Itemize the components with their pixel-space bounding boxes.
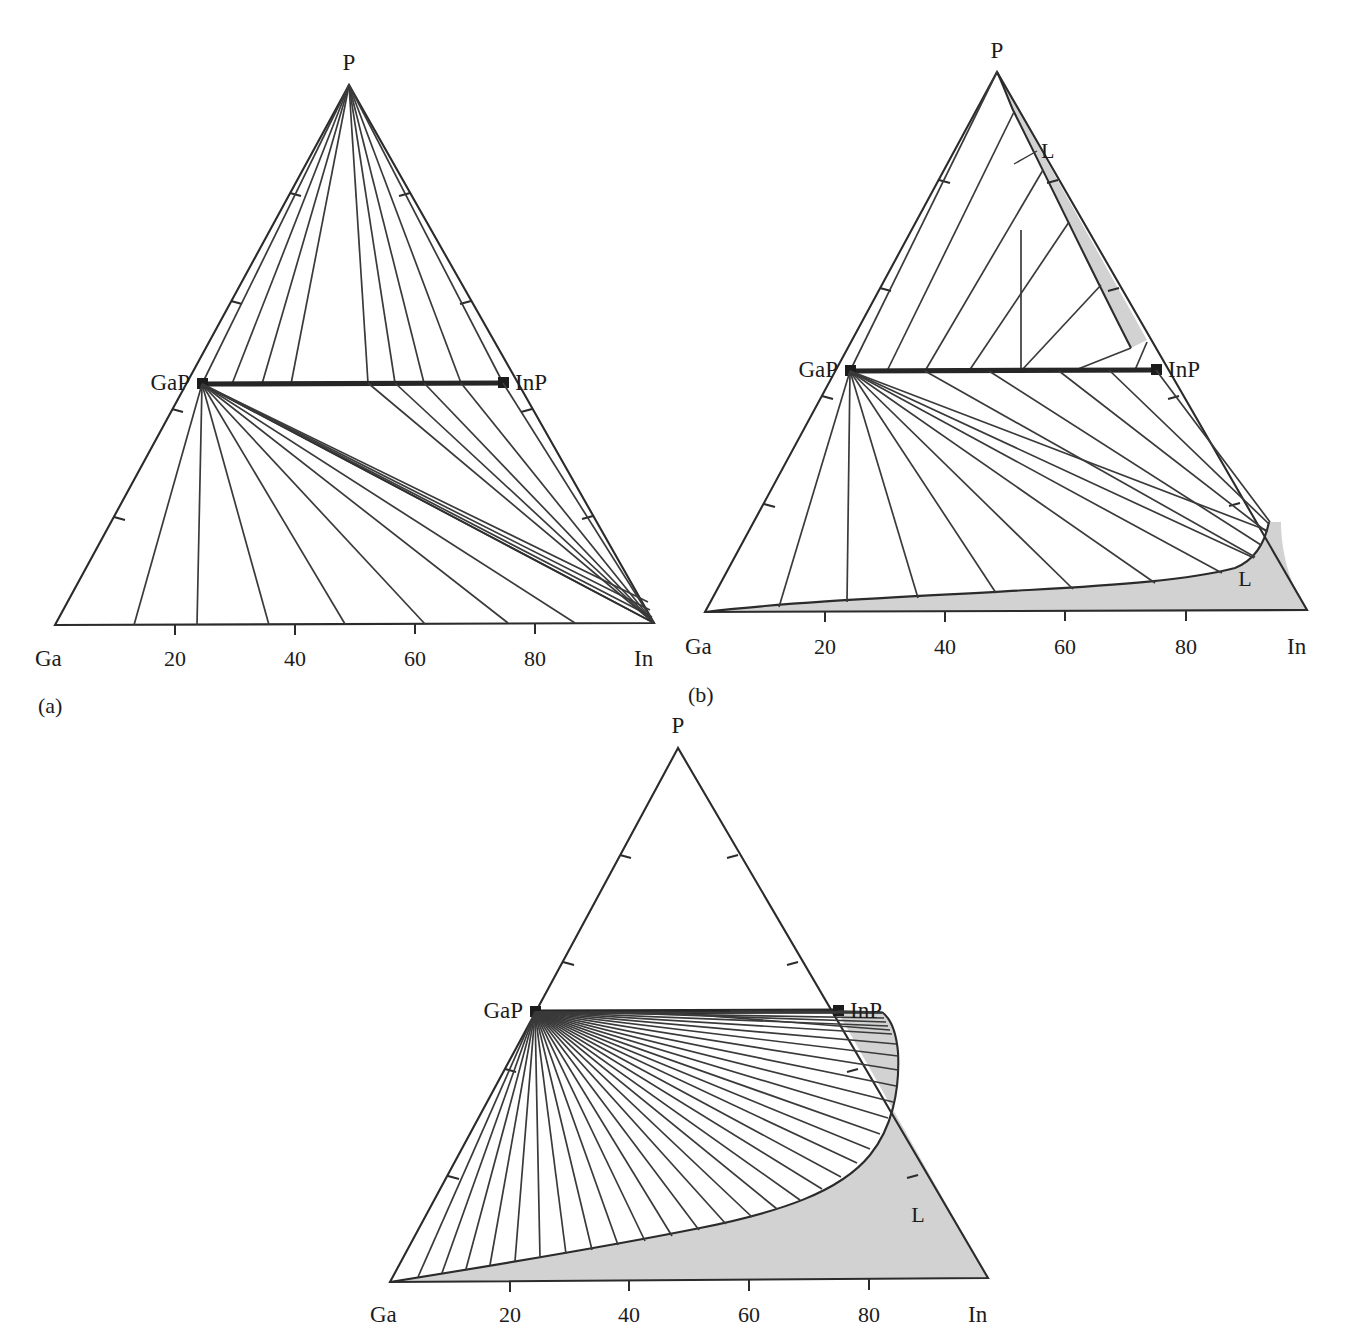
panel-caption-a: (a) — [38, 693, 62, 718]
vertex-label-p-b: P — [991, 38, 1004, 63]
panel-a: P Ga In GaP InP 20 40 60 80 (a) — [0, 30, 690, 720]
phase-label-l-apex-b: L — [1041, 138, 1054, 163]
panel-b: L L P Ga In GaP InP 20 40 60 80 (b) — [669, 30, 1359, 720]
tie-lines-lower-b — [779, 371, 1266, 607]
compound-label-gap-a: GaP — [150, 370, 190, 395]
compound-label-inp-c: InP — [850, 998, 882, 1023]
compound-label-gap-c: GaP — [483, 998, 523, 1023]
phase-label-leader-b — [1014, 151, 1037, 164]
vertex-label-in-b: In — [1287, 634, 1307, 659]
vertex-label-ga-c: Ga — [370, 1302, 397, 1327]
panel-c: L P Ga In GaP InP 20 40 60 80 — [330, 700, 1050, 1342]
tick-label-80-b: 80 — [1175, 634, 1197, 659]
vertex-label-p-a: P — [343, 50, 356, 75]
edge-ticks-b — [764, 180, 1240, 622]
phase-label-l-c: L — [911, 1202, 924, 1227]
figure-ternary-phase-diagrams: P Ga In GaP InP 20 40 60 80 (a) — [0, 0, 1359, 1342]
tick-label-20-a: 20 — [164, 646, 186, 671]
tick-label-60-b: 60 — [1054, 634, 1076, 659]
tie-lines-lower-a — [134, 384, 654, 625]
tick-label-20-c: 20 — [499, 1302, 521, 1327]
gap-inp-join-a — [197, 377, 509, 389]
tie-lines-upper-b — [850, 72, 1147, 371]
triangle-outline-b — [705, 72, 1307, 612]
compound-label-gap-b: GaP — [798, 357, 838, 382]
panel-b-svg: L L P Ga In GaP InP 20 40 60 80 (b) — [669, 30, 1359, 720]
tick-label-40-c: 40 — [618, 1302, 640, 1327]
vertex-label-in-c: In — [968, 1302, 988, 1327]
edge-ticks-a — [114, 193, 593, 635]
panel-a-svg: P Ga In GaP InP 20 40 60 80 (a) — [0, 30, 690, 720]
vertex-label-ga-a: Ga — [35, 646, 62, 671]
vertex-label-ga-b: Ga — [685, 634, 712, 659]
panel-c-svg: L P Ga In GaP InP 20 40 60 80 — [330, 700, 1050, 1342]
compound-label-inp-b: InP — [1168, 357, 1200, 382]
tick-label-40-a: 40 — [284, 646, 306, 671]
phase-label-l-base-b: L — [1238, 566, 1251, 591]
tie-lines-upper-a — [202, 85, 503, 384]
liquid-region-c — [390, 1012, 988, 1282]
tick-label-40-b: 40 — [934, 634, 956, 659]
tie-lines-to-liquidus-b — [925, 370, 1270, 557]
compound-label-inp-a: InP — [515, 370, 547, 395]
tick-label-80-c: 80 — [858, 1302, 880, 1327]
vertex-label-in-a: In — [634, 646, 654, 671]
tick-label-80-a: 80 — [524, 646, 546, 671]
tie-lines-to-in-a — [368, 383, 654, 623]
tick-label-60-a: 60 — [404, 646, 426, 671]
vertex-label-p-c: P — [672, 713, 685, 738]
tick-label-20-b: 20 — [814, 634, 836, 659]
tick-label-60-c: 60 — [738, 1302, 760, 1327]
